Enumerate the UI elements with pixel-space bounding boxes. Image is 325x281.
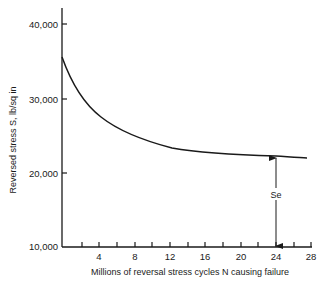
y-ticks (62, 24, 67, 173)
y-tick-label: 10,000 (29, 241, 58, 252)
y-axis-label: Reversed stress S, lb/sq in (8, 86, 18, 193)
y-tick-label: 20,000 (29, 168, 58, 179)
x-ticks (82, 242, 311, 247)
y-tick-label: 40,000 (29, 19, 58, 30)
x-tick-label: 20 (236, 251, 247, 262)
x-tick-label: 24 (271, 251, 282, 262)
x-tick-label: 28 (306, 251, 317, 262)
x-tick-label: 12 (165, 251, 176, 262)
y-tick-label: 30,000 (29, 94, 58, 105)
sn-chart: 40,000 30,000 20,000 10,000 4 8 12 16 20… (0, 0, 325, 281)
x-tick-label: 8 (132, 251, 137, 262)
sn-curve (62, 57, 307, 158)
se-annotation: Se (270, 190, 281, 200)
x-axis-label: Millions of reversal stress cycles N cau… (91, 267, 289, 277)
x-tick-label: 4 (96, 251, 101, 262)
x-tick-label: 16 (200, 251, 211, 262)
